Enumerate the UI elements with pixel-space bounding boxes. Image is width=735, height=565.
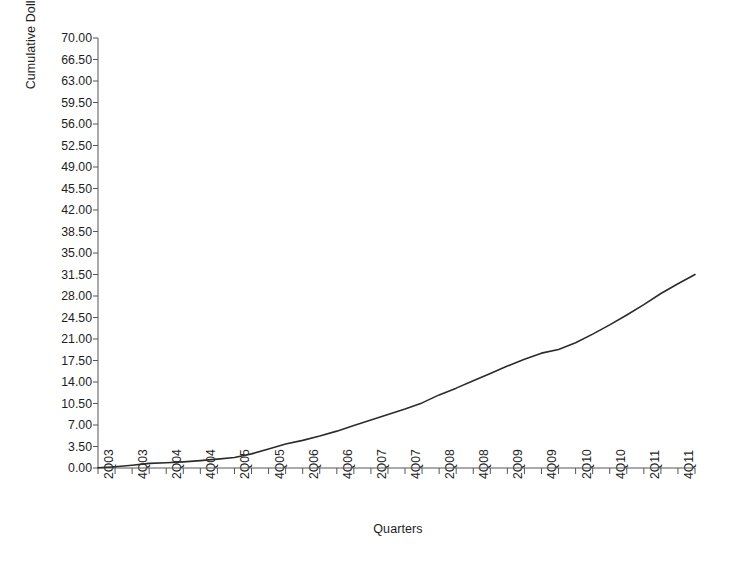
data-series-line (98, 275, 695, 468)
line-chart: Cumulative Dollars 0.003.507.0010.5014.0… (0, 0, 735, 565)
x-axis-title: Quarters (98, 522, 698, 536)
y-axis-ticks (93, 38, 98, 468)
x-axis-ticks (98, 468, 695, 474)
plot-area (0, 0, 735, 565)
axis-lines (98, 38, 695, 468)
